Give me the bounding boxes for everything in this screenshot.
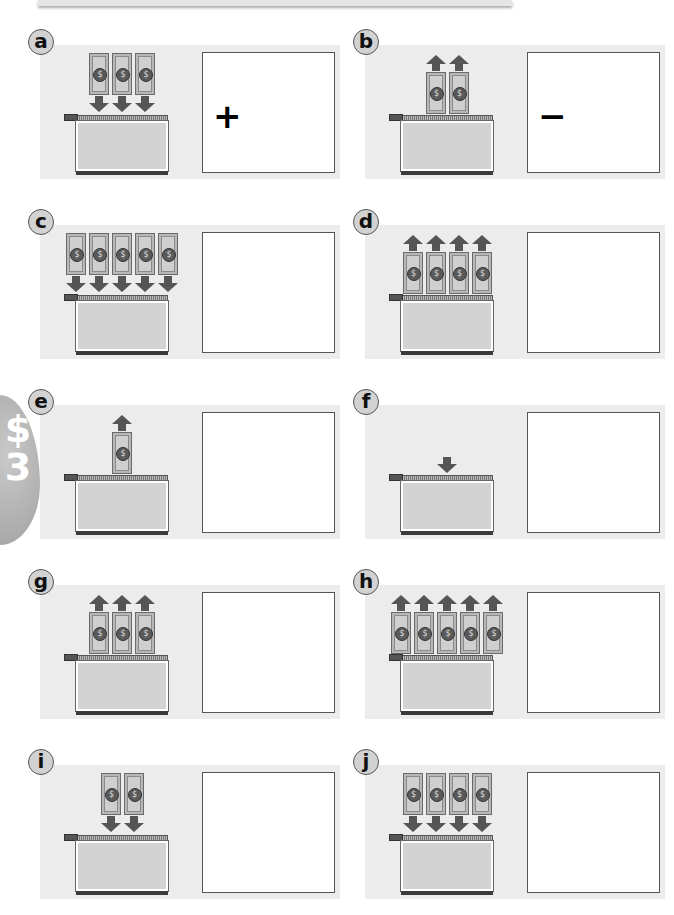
- dollar-bill-icon: $: [158, 233, 178, 275]
- bill-seal-icon: $: [418, 627, 432, 641]
- answer-box[interactable]: [202, 772, 335, 893]
- wallet-bottom: [76, 171, 168, 175]
- wallet-bottom: [401, 171, 493, 175]
- bill-seal-icon: $: [93, 248, 107, 262]
- answer-box[interactable]: [527, 412, 660, 533]
- dollar-bill-icon: $: [391, 612, 411, 654]
- top-header-bar: [38, 0, 512, 6]
- dollar-bill-icon: $: [112, 233, 132, 275]
- arrow-down-icon: [124, 816, 144, 832]
- answer-box[interactable]: [202, 412, 335, 533]
- dollar-bill-icon: $: [483, 612, 503, 654]
- answer-box[interactable]: +: [202, 52, 335, 173]
- wallet-icon: [395, 115, 493, 175]
- wallet-bottom: [401, 351, 493, 355]
- bill-seal-icon: $: [430, 267, 444, 281]
- arrow-up-icon: [460, 595, 480, 611]
- bill-seal-icon: $: [116, 627, 130, 641]
- arrow-down-icon: [112, 96, 132, 112]
- wallet-icon: [395, 475, 493, 535]
- answer-box[interactable]: [527, 592, 660, 713]
- wallet-bottom: [76, 531, 168, 535]
- problem-letter-badge: j: [353, 749, 379, 775]
- problem-letter-badge: h: [353, 569, 379, 595]
- dollar-bill-icon: $: [449, 252, 469, 294]
- wallet-body: [76, 841, 168, 891]
- wallet-bottom: [401, 891, 493, 895]
- dollar-bill-icon: $: [124, 773, 144, 815]
- wallet-body: [76, 301, 168, 351]
- arrow-down-icon: [403, 816, 423, 832]
- dollar-bill-icon: $: [112, 612, 132, 654]
- bill-seal-icon: $: [476, 267, 490, 281]
- problem-letter-badge: d: [353, 209, 379, 235]
- arrow-down-icon: [426, 816, 446, 832]
- zipper-pull: [64, 654, 78, 661]
- wallet-body: [76, 481, 168, 531]
- wallet-bottom: [401, 531, 493, 535]
- dollar-bill-icon: $: [426, 72, 446, 114]
- arrow-down-icon: [135, 96, 155, 112]
- wallet-icon: [70, 475, 168, 535]
- arrow-down-icon: [89, 96, 109, 112]
- bill-seal-icon: $: [139, 248, 153, 262]
- dollar-bill-icon: $: [66, 233, 86, 275]
- answer-box[interactable]: −: [527, 52, 660, 173]
- dollar-bill-icon: $: [101, 773, 121, 815]
- arrow-up-icon: [483, 595, 503, 611]
- zipper-pull: [64, 114, 78, 121]
- problem-letter-badge: a: [28, 29, 54, 55]
- wallet-body: [401, 661, 493, 711]
- bill-seal-icon: $: [116, 248, 130, 262]
- arrow-down-icon: [437, 457, 457, 473]
- arrow-up-icon: [391, 595, 411, 611]
- bill-seal-icon: $: [453, 267, 467, 281]
- bill-seal-icon: $: [116, 68, 130, 82]
- dollar-bill-icon: $: [472, 773, 492, 815]
- zipper-pull: [64, 294, 78, 301]
- arrow-up-icon: [437, 595, 457, 611]
- dollar-bill-icon: $: [89, 53, 109, 95]
- wallet-bottom: [76, 351, 168, 355]
- arrow-up-icon: [472, 235, 492, 251]
- dollar-bill-icon: $: [112, 53, 132, 95]
- wallet-icon: [395, 655, 493, 715]
- arrow-down-icon: [66, 276, 86, 292]
- arrow-down-icon: [472, 816, 492, 832]
- wallet-icon: [70, 295, 168, 355]
- bill-seal-icon: $: [162, 248, 176, 262]
- arrow-up-icon: [89, 595, 109, 611]
- bill-seal-icon: $: [453, 87, 467, 101]
- wallet-body: [401, 841, 493, 891]
- problem-letter-badge: i: [28, 749, 54, 775]
- bill-seal-icon: $: [70, 248, 84, 262]
- wallet-body: [76, 121, 168, 171]
- dollar-bill-icon: $: [472, 252, 492, 294]
- wallet-body: [401, 121, 493, 171]
- bill-seal-icon: $: [93, 627, 107, 641]
- problem-letter-badge: e: [28, 389, 54, 415]
- arrow-up-icon: [135, 595, 155, 611]
- dollar-symbol: $: [0, 410, 38, 448]
- arrow-up-icon: [112, 595, 132, 611]
- problem-letter-badge: c: [28, 209, 54, 235]
- problem-letter-badge: b: [353, 29, 379, 55]
- zipper-pull: [64, 834, 78, 841]
- answer-box[interactable]: [527, 232, 660, 353]
- answer-box[interactable]: [202, 232, 335, 353]
- zipper-pull: [389, 654, 403, 661]
- bill-seal-icon: $: [93, 68, 107, 82]
- answer-box[interactable]: [202, 592, 335, 713]
- zipper-pull: [389, 474, 403, 481]
- wallet-icon: [395, 295, 493, 355]
- dollar-bill-icon: $: [460, 612, 480, 654]
- zipper-pull: [64, 474, 78, 481]
- arrow-down-icon: [89, 276, 109, 292]
- wallet-icon: [70, 835, 168, 895]
- arrow-up-icon: [414, 595, 434, 611]
- dollar-bill-icon: $: [449, 72, 469, 114]
- answer-box[interactable]: [527, 772, 660, 893]
- dollar-bill-icon: $: [414, 612, 434, 654]
- bill-seal-icon: $: [128, 788, 142, 802]
- dollar-bill-icon: $: [135, 233, 155, 275]
